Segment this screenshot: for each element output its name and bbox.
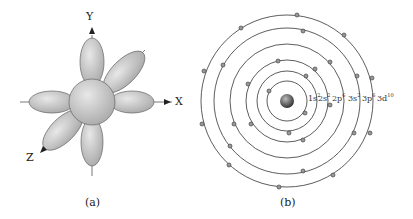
shell-label-3p: 3p6 <box>362 92 375 103</box>
shell-label-2p: 2p6 <box>332 92 345 103</box>
orbital-lobes <box>20 27 172 176</box>
y-axis-label: Y <box>86 10 93 23</box>
z-axis-label: Z <box>26 151 34 164</box>
x-axis-label: X <box>175 95 183 108</box>
caption-a: (a) <box>85 196 100 209</box>
nucleus <box>280 94 294 108</box>
shell-label-3s: 3s2 <box>348 92 360 103</box>
caption-b: (b) <box>280 196 296 209</box>
diagram-canvas <box>0 0 413 219</box>
shell-label-2s: 2s2 <box>318 92 330 103</box>
shell-label-3d: 3d10 <box>377 92 394 103</box>
